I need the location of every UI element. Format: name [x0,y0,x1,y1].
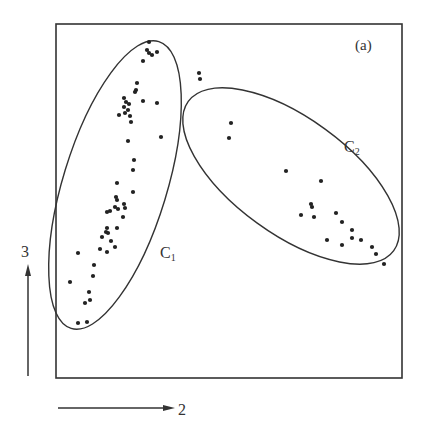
data-point [359,238,363,242]
data-point [83,301,87,305]
data-point [123,206,127,210]
data-point [106,231,110,235]
data-point [159,135,163,139]
data-point [340,220,344,224]
data-point [155,101,159,105]
data-point [147,40,151,44]
data-point [284,169,288,173]
data-point [374,252,378,256]
cluster-label: C2 [344,138,360,157]
data-point [122,96,126,100]
data-point [122,105,126,109]
data-point [76,321,80,325]
data-point [115,198,119,202]
data-point [319,179,323,183]
data-point [229,121,233,125]
data-point [115,181,119,185]
cluster-ellipse [154,54,427,297]
data-point [350,236,354,240]
data-point [122,202,126,206]
data-point [88,298,92,302]
data-point [197,71,201,75]
cluster-1: C1 [21,26,208,343]
clusters: C1C2 [21,26,427,343]
data-point [155,50,159,54]
data-point [91,274,95,278]
data-point [334,211,338,215]
data-point [117,113,121,117]
scatter-plot: C1C2 (a) 3 2 [0,0,427,423]
data-point [121,215,125,219]
y-axis-label: 3 [21,243,29,260]
cluster-ellipse [21,26,208,343]
data-point [127,102,131,106]
data-point [370,245,374,249]
cluster-label: C1 [160,244,176,263]
x-axis-label: 2 [178,401,186,418]
data-point [133,90,137,94]
data-point [141,99,145,103]
panel-label: (a) [355,37,372,54]
data-point [87,290,91,294]
data-point [131,168,135,172]
data-point [115,226,119,230]
data-point [126,139,130,143]
data-point [129,120,133,124]
data-point [198,77,202,81]
x-axis-arrow [58,405,175,411]
data-point [131,190,135,194]
data-point [108,209,112,213]
data-point [227,136,231,140]
cluster-2: C2 [154,54,427,297]
data-point [310,205,314,209]
data-point [123,111,127,115]
data-point [340,243,344,247]
data-point [105,250,109,254]
data-point [105,226,109,230]
data-point [98,247,102,251]
data-point [141,59,145,63]
data-point [325,238,329,242]
data-point [92,263,96,267]
data-point [76,251,80,255]
y-axis-arrow [25,264,31,376]
data-point [350,228,354,232]
data-point [116,207,120,211]
data-point [312,215,316,219]
data-point [382,262,386,266]
data-point [132,158,136,162]
data-point [135,81,139,85]
data-point [126,108,130,112]
data-point [128,114,132,118]
data-point [68,280,72,284]
data-point [299,213,303,217]
data-point [150,53,154,57]
data-point [113,245,117,249]
data-point [85,320,89,324]
data-point [100,235,104,239]
data-point [109,239,113,243]
